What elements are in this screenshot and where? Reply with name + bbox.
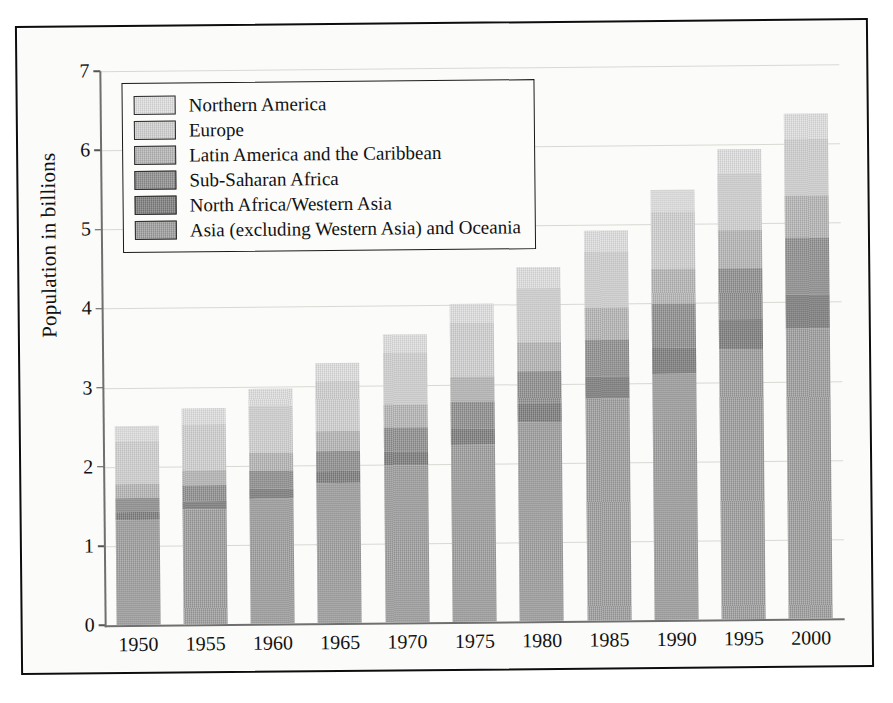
bar-segment[interactable] (451, 444, 497, 622)
y-tick-label: 6 (64, 140, 90, 160)
bar-segment[interactable] (518, 402, 562, 421)
bar-column[interactable] (583, 230, 631, 621)
x-tick-label: 1970 (372, 630, 442, 654)
bar-segment[interactable] (784, 138, 829, 196)
bar-column[interactable] (316, 363, 362, 623)
x-tick-label: 1965 (305, 631, 375, 655)
bar-segment[interactable] (182, 485, 226, 501)
bar-segment[interactable] (451, 428, 495, 444)
bar-segment[interactable] (718, 268, 762, 319)
bar-segment[interactable] (182, 470, 226, 485)
bar-segment[interactable] (651, 269, 695, 304)
bar-segment[interactable] (786, 329, 833, 619)
bar-segment[interactable] (450, 322, 495, 376)
bar-segment[interactable] (718, 230, 762, 268)
chart-canvas: 01234567 Population in billions 19501955… (17, 20, 872, 673)
legend-label: Northern America (189, 93, 327, 116)
bar-segment[interactable] (785, 196, 829, 238)
bar-column[interactable] (650, 190, 698, 620)
bar-segment[interactable] (249, 405, 293, 453)
bar-segment[interactable] (518, 421, 564, 621)
legend-item[interactable]: Latin America and the Caribbean (134, 139, 520, 168)
legend-item[interactable]: Northern America (134, 89, 520, 118)
legend-item[interactable]: Asia (excluding Western Asia) and Oceani… (135, 214, 521, 243)
bar-segment[interactable] (584, 251, 629, 308)
bar-column[interactable] (181, 408, 227, 624)
y-tick-label: 1 (68, 535, 94, 555)
bar-segment[interactable] (181, 408, 225, 424)
bar-segment[interactable] (182, 501, 226, 510)
y-axis-ticks: 01234567 (17, 20, 866, 28)
x-tick-label: 2000 (776, 626, 846, 650)
bar-column[interactable] (114, 425, 160, 625)
bar-segment[interactable] (114, 425, 158, 440)
bar-segment[interactable] (182, 509, 227, 624)
bar-segment[interactable] (517, 342, 561, 371)
bar-column[interactable] (784, 113, 833, 618)
bar-segment[interactable] (115, 519, 160, 625)
bar-segment[interactable] (383, 427, 427, 451)
bar-segment[interactable] (719, 349, 766, 619)
bar-segment[interactable] (249, 453, 293, 471)
bar-segment[interactable] (450, 376, 494, 402)
bar-segment[interactable] (651, 304, 695, 348)
bar-segment[interactable] (585, 376, 629, 399)
x-tick-label: 1990 (642, 627, 712, 651)
y-tick-label: 4 (66, 298, 92, 318)
bar-segment[interactable] (450, 303, 494, 322)
bar-segment[interactable] (584, 308, 628, 340)
bar-column[interactable] (517, 267, 564, 621)
bar-segment[interactable] (717, 149, 761, 173)
bar-segment[interactable] (451, 402, 495, 429)
legend-item[interactable]: North Africa/Western Asia (135, 189, 521, 218)
bar-segment[interactable] (651, 212, 696, 269)
bar-segment[interactable] (384, 451, 428, 465)
legend-item[interactable]: Sub-Saharan Africa (134, 164, 520, 193)
bar-segment[interactable] (784, 113, 828, 138)
bar-segment[interactable] (384, 465, 430, 623)
x-tick-label: 1980 (507, 629, 577, 653)
y-tick-label: 7 (63, 60, 89, 80)
bar-segment[interactable] (583, 230, 627, 252)
bar-segment[interactable] (383, 352, 427, 405)
bar-segment[interactable] (249, 388, 293, 405)
legend-label: Asia (excluding Western Asia) and Oceani… (190, 216, 521, 241)
bar-segment[interactable] (317, 471, 361, 483)
bar-segment[interactable] (383, 405, 427, 428)
bar-segment[interactable] (517, 267, 561, 288)
bar-segment[interactable] (115, 440, 159, 484)
bar-segment[interactable] (717, 173, 762, 231)
bar-segment[interactable] (517, 288, 562, 343)
bar-segment[interactable] (316, 450, 360, 471)
legend-label: Sub-Saharan Africa (189, 168, 339, 191)
bar-column[interactable] (450, 303, 497, 622)
bar-segment[interactable] (584, 339, 628, 377)
bar-segment[interactable] (316, 381, 360, 431)
bar-column[interactable] (249, 388, 295, 623)
x-tick-label: 1950 (103, 633, 173, 657)
bar-segment[interactable] (652, 373, 698, 620)
bar-segment[interactable] (518, 371, 562, 403)
bar-segment[interactable] (249, 470, 293, 489)
bar-segment[interactable] (115, 484, 159, 498)
gridlines (17, 20, 866, 28)
legend-item[interactable]: Europe (134, 114, 520, 143)
y-tick-label: 3 (66, 377, 92, 397)
bar-segment[interactable] (250, 488, 294, 499)
bar-segment[interactable] (652, 347, 696, 374)
bar-segment[interactable] (786, 295, 830, 329)
bar-segment[interactable] (316, 431, 360, 451)
bar-segment[interactable] (585, 399, 631, 621)
bar-segment[interactable] (316, 363, 360, 381)
bar-segment[interactable] (383, 334, 427, 353)
bar-column[interactable] (383, 334, 430, 622)
x-tick-label: 1955 (171, 632, 241, 656)
bar-segment[interactable] (182, 424, 226, 470)
bar-column[interactable] (717, 149, 766, 619)
bar-segment[interactable] (650, 190, 694, 213)
bar-segment[interactable] (785, 237, 830, 295)
bar-segment[interactable] (250, 498, 295, 623)
bar-segment[interactable] (115, 497, 159, 512)
bar-segment[interactable] (719, 319, 763, 349)
bar-segment[interactable] (317, 483, 362, 623)
